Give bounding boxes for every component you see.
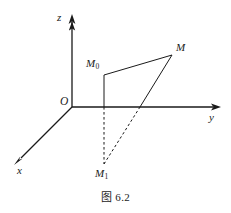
- point-label-m0-subscript: 0: [95, 62, 99, 71]
- point-label-m0-base: M: [86, 57, 95, 69]
- axis-line-x: [21, 107, 72, 158]
- point-label-m1-subscript: 1: [104, 172, 108, 181]
- coordinate-system-diagram: [0, 0, 231, 213]
- axis-label-x: x: [17, 165, 22, 176]
- point-label-m1: M1: [95, 168, 108, 179]
- segment-m1-to-m-dashed: [104, 107, 140, 164]
- axis-label-y: y: [209, 112, 214, 123]
- figure-container: z y x O M M0 M1 图 6.2: [0, 0, 231, 213]
- figure-caption: 图 6.2: [0, 188, 231, 204]
- point-label-m: M: [176, 42, 185, 53]
- point-label-m0: M0: [86, 58, 99, 69]
- origin-label: O: [60, 96, 68, 108]
- point-label-m1-base: M: [95, 167, 104, 179]
- axis-label-z: z: [57, 12, 61, 23]
